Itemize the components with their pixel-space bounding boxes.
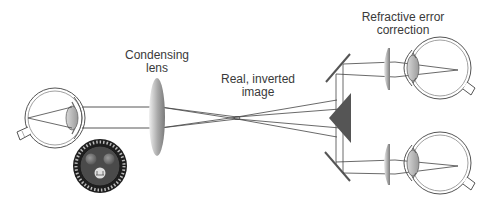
observed-eye <box>17 88 85 148</box>
condensing-lens-label-line2: lens <box>122 62 192 75</box>
upper-mirror <box>326 54 350 82</box>
lower-rays <box>336 160 458 174</box>
upper-rays <box>336 62 458 77</box>
reticle-disk <box>73 139 127 193</box>
condensing-lens <box>149 78 165 156</box>
real-image-label-line2: image <box>212 86 304 99</box>
refractive-label-line2: correction <box>350 24 456 37</box>
condensing-lens-label: Condensing lens <box>122 49 192 75</box>
binocular-indirect-ophthalmoscope-diagram: Condensing lens Real, inverted image Ref… <box>0 0 481 209</box>
refractive-correction-label: Refractive error correction <box>350 11 456 37</box>
observer-eye-lower <box>404 132 475 194</box>
real-image-label: Real, inverted image <box>212 73 304 99</box>
lower-mirror <box>325 152 350 181</box>
ray-bundle <box>82 100 340 137</box>
lower-correction-lens <box>384 144 390 185</box>
upper-correction-lens <box>384 48 390 90</box>
